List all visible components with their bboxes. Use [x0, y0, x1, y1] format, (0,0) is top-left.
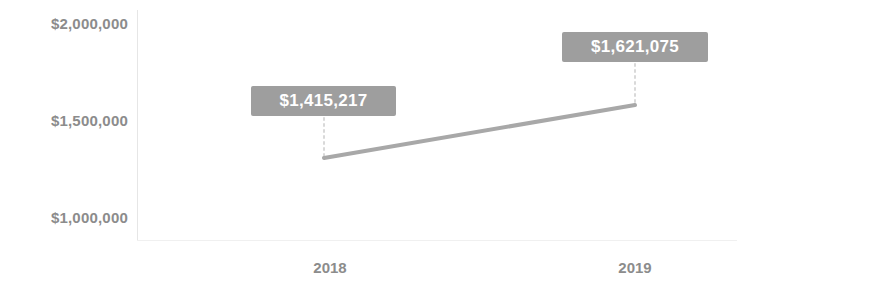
line-chart: $2,000,000 $1,500,000 $1,000,000 2018 20…: [0, 0, 884, 299]
data-label-badge: $1,415,217: [251, 86, 396, 116]
data-label-badge: $1,621,075: [562, 32, 708, 62]
plot-area: [0, 0, 884, 299]
